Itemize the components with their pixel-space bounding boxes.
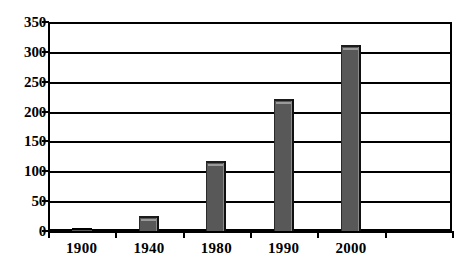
bar-right-edge: [157, 216, 159, 231]
bar-top-highlight: [276, 102, 291, 104]
bar: [139, 216, 159, 231]
bar-chart: 050100150200250300350 190019401980199020…: [0, 0, 465, 266]
x-axis-tick-mark: [115, 231, 117, 238]
x-axis-tick-label: 1940: [133, 240, 164, 257]
x-axis-tick-label: 2000: [335, 240, 366, 257]
bar-right-edge: [359, 45, 361, 231]
x-axis-tick-mark: [48, 231, 50, 238]
x-axis-tick-mark: [183, 231, 185, 238]
x-axis-tick-mark: [317, 231, 319, 238]
x-axis-tick-mark: [385, 231, 387, 238]
x-axis-tick-label: 1990: [268, 240, 299, 257]
x-axis-tick-label: 1900: [66, 240, 97, 257]
bar-right-edge: [224, 161, 226, 231]
bar-right-edge: [292, 99, 294, 231]
bar-top-highlight: [343, 48, 358, 50]
bar: [274, 99, 294, 231]
bar-top-highlight: [141, 219, 156, 221]
bar: [206, 161, 226, 231]
x-axis-tick-label: 1980: [201, 240, 232, 257]
x-axis-tick-mark: [452, 231, 454, 238]
bar: [341, 45, 361, 231]
y-axis-tick-marks: [0, 22, 50, 231]
x-axis-tick-mark: [250, 231, 252, 238]
bars-layer: [48, 22, 452, 231]
bar-top-highlight: [208, 164, 223, 166]
